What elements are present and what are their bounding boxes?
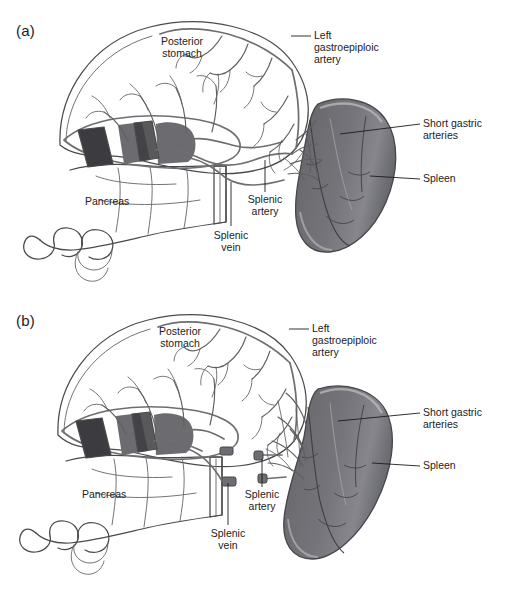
label-short-gastric-arteries: Short gastric arteries: [423, 407, 506, 431]
anatomical-figure: (a): [0, 0, 506, 609]
label-left-gastroepiploic-artery: Left gastroepiploic artery: [314, 30, 424, 65]
spleen-shape: [284, 386, 393, 559]
label-pancreas: Pancreas: [82, 489, 152, 501]
label-splenic-vein: Splenic vein: [203, 230, 259, 254]
panel-b: (b): [0, 297, 506, 609]
label-spleen: Spleen: [423, 460, 493, 472]
label-splenic-vein: Splenic vein: [200, 528, 256, 552]
panel-letter-a: (a): [16, 22, 35, 39]
label-splenic-artery: Splenic artery: [237, 194, 293, 218]
label-posterior-stomach: Posterior stomach: [135, 326, 225, 350]
pancreas-shape: [20, 455, 222, 574]
panel-a: (a): [0, 0, 506, 300]
pancreas-shape: [24, 164, 226, 281]
transected-vessel-stumps: [76, 412, 193, 458]
splenic-artery-divided-distal-stump: [254, 451, 286, 483]
panel-a-illustration: [0, 0, 506, 300]
label-short-gastric-arteries: Short gastric arteries: [423, 118, 506, 142]
label-posterior-stomach: Posterior stomach: [137, 36, 227, 60]
label-spleen: Spleen: [423, 173, 493, 185]
panel-letter-b: (b): [16, 312, 35, 329]
panel-b-illustration: [0, 297, 506, 609]
label-splenic-artery: Splenic artery: [234, 489, 290, 513]
transected-vessel-stumps: [78, 121, 195, 167]
label-pancreas: Pancreas: [85, 196, 155, 208]
label-left-gastroepiploic-artery: Left gastroepiploic artery: [312, 323, 422, 358]
